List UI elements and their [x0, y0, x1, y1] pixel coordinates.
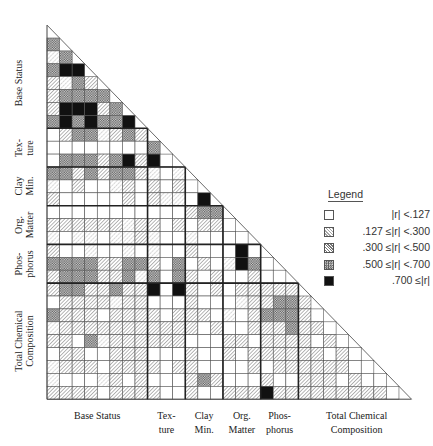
- matrix-cell: [311, 348, 324, 361]
- matrix-cell: [97, 373, 110, 386]
- matrix-cell: [97, 322, 110, 335]
- matrix-cell: [85, 232, 98, 245]
- row-group-label: Total Chemical Composition: [13, 296, 39, 386]
- matrix-cell: [47, 167, 60, 180]
- matrix-cell: [135, 283, 148, 296]
- matrix-cell: [185, 386, 198, 399]
- matrix-cell: [47, 154, 60, 167]
- matrix-cell: [273, 373, 286, 386]
- matrix-cell: [273, 309, 286, 322]
- matrix-cell: [198, 386, 211, 399]
- matrix-cell: [210, 348, 223, 361]
- matrix-cell: [210, 373, 223, 386]
- matrix-cell: [72, 77, 85, 90]
- matrix-cell: [47, 193, 60, 206]
- matrix-cell: [97, 361, 110, 374]
- matrix-cell: [223, 296, 236, 309]
- matrix-cell: [122, 257, 135, 270]
- matrix-cell: [185, 232, 198, 245]
- legend-label: .127 ≤|r| <.300: [362, 225, 430, 237]
- matrix-cell: [261, 322, 274, 335]
- matrix-cell: [148, 322, 161, 335]
- matrix-cell: [85, 90, 98, 103]
- matrix-cell: [122, 232, 135, 245]
- matrix-cell: [148, 180, 161, 193]
- matrix-cell: [60, 257, 73, 270]
- matrix-cell: [160, 296, 173, 309]
- matrix-cell: [47, 232, 60, 245]
- matrix-cell: [97, 219, 110, 232]
- matrix-cell: [72, 386, 85, 399]
- matrix-cell: [47, 38, 60, 51]
- matrix-cell: [85, 322, 98, 335]
- matrix-cell: [248, 257, 261, 270]
- matrix-cell: [349, 386, 362, 399]
- matrix-cell: [60, 193, 73, 206]
- matrix-cell: [223, 335, 236, 348]
- matrix-cell: [85, 154, 98, 167]
- matrix-cell: [110, 206, 123, 219]
- matrix-cell: [236, 335, 249, 348]
- matrix-cell: [160, 257, 173, 270]
- matrix-cell: [122, 270, 135, 283]
- matrix-cell: [185, 361, 198, 374]
- matrix-cell: [135, 322, 148, 335]
- matrix-cell: [324, 386, 337, 399]
- matrix-cell: [110, 386, 123, 399]
- matrix-cell: [97, 283, 110, 296]
- matrix-cell: [60, 180, 73, 193]
- legend-item: .700 ≤|r|: [324, 274, 433, 291]
- legend-label: .500 ≤|r| <.700: [362, 258, 430, 270]
- matrix-cell: [85, 335, 98, 348]
- matrix-cell: [198, 361, 211, 374]
- matrix-cell: [210, 219, 223, 232]
- matrix-cell: [47, 386, 60, 399]
- matrix-cell: [236, 296, 249, 309]
- matrix-cell: [298, 296, 311, 309]
- matrix-cell: [47, 283, 60, 296]
- matrix-cell: [110, 167, 123, 180]
- matrix-cell: [173, 283, 186, 296]
- matrix-cell: [160, 193, 173, 206]
- matrix-cell: [148, 167, 161, 180]
- matrix-cell: [60, 283, 73, 296]
- matrix-cell: [324, 361, 337, 374]
- matrix-cell: [72, 335, 85, 348]
- matrix-cell: [85, 386, 98, 399]
- matrix-cell: [298, 322, 311, 335]
- matrix-cell: [148, 244, 161, 257]
- matrix-cell: [60, 348, 73, 361]
- matrix-cell: [286, 361, 299, 374]
- matrix-cell: [110, 128, 123, 141]
- matrix-cell: [122, 180, 135, 193]
- matrix-cell: [85, 361, 98, 374]
- matrix-cell: [210, 296, 223, 309]
- matrix-cell: [110, 115, 123, 128]
- matrix-cell: [173, 257, 186, 270]
- matrix-cell: [185, 322, 198, 335]
- matrix-cell: [236, 257, 249, 270]
- matrix-cell: [135, 219, 148, 232]
- matrix-cell: [236, 244, 249, 257]
- matrix-cell: [47, 141, 60, 154]
- matrix-cell: [173, 206, 186, 219]
- matrix-cell: [72, 90, 85, 103]
- matrix-cell: [248, 373, 261, 386]
- matrix-cell: [85, 180, 98, 193]
- matrix-cell: [198, 309, 211, 322]
- matrix-cell: [236, 386, 249, 399]
- matrix-cell: [60, 167, 73, 180]
- matrix-cell: [72, 219, 85, 232]
- matrix-cell: [122, 244, 135, 257]
- matrix-cell: [135, 257, 148, 270]
- matrix-cell: [198, 373, 211, 386]
- matrix-cell: [286, 386, 299, 399]
- matrix-cell: [160, 180, 173, 193]
- legend-item: |r| <.127: [324, 208, 433, 225]
- matrix-cell: [210, 335, 223, 348]
- matrix-cell: [110, 322, 123, 335]
- matrix-cell: [47, 51, 60, 64]
- matrix-cell: [47, 103, 60, 116]
- matrix-cell: [85, 77, 98, 90]
- matrix-cell: [47, 128, 60, 141]
